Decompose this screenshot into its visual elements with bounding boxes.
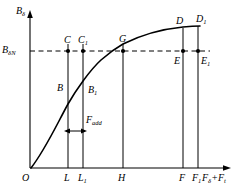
point-label-E: E — [174, 56, 180, 66]
y-axis-label: Bδ — [16, 6, 25, 16]
tick-label-F: F — [179, 173, 185, 183]
point-label-C1: C1 — [78, 35, 88, 45]
point-label-G: G — [119, 34, 126, 44]
tick-label-F1: F1 — [192, 173, 201, 183]
point-marker-E — [181, 49, 185, 53]
point-label-B: B — [57, 83, 63, 93]
tick-label-L: L — [64, 173, 70, 183]
point-label-E1: E1 — [201, 56, 210, 66]
point-label-C: C — [64, 35, 71, 45]
point-marker-C — [66, 49, 70, 53]
point-label-D: D — [176, 16, 183, 26]
point-label-B1: B1 — [88, 85, 97, 95]
x-axis-label: Fδ+Ft — [202, 173, 226, 183]
point-marker-G — [121, 49, 125, 53]
magnetization-curve — [31, 26, 200, 168]
x-axis-arrowhead — [223, 165, 231, 171]
point-marker-E1 — [196, 49, 200, 53]
y-axis-arrowhead — [27, 10, 33, 18]
fadd-arrow-head-right — [81, 129, 87, 134]
tick-label-L1: L1 — [78, 173, 87, 183]
figure-container: Bδ BδN O Fδ+Ft L L1 H F F1 C C1 G D D1 E… — [0, 0, 238, 196]
fadd-label: Fadd — [86, 115, 102, 125]
fadd-arrow-head-left — [64, 129, 70, 134]
point-marker-C1 — [81, 49, 85, 53]
tick-label-H: H — [118, 173, 125, 183]
point-label-D1: D1 — [196, 14, 206, 24]
diagram-svg — [0, 0, 238, 196]
level-label-bdn: BδN — [2, 45, 15, 55]
origin-label: O — [22, 173, 29, 183]
